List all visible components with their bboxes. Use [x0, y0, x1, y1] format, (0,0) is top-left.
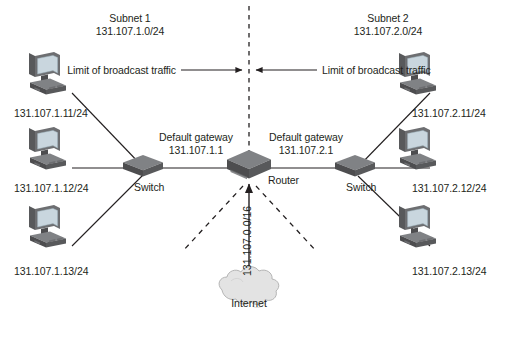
router-label: Router [268, 174, 299, 187]
broadcast-limit-label-left: Limit of broadcast traffic [67, 64, 176, 77]
subnet-1-cidr: 131.107.1.0/24 [96, 25, 165, 38]
link-left-pc1 [72, 93, 143, 167]
computer-icon-left-1 [29, 52, 66, 95]
router-icon [227, 150, 271, 179]
wan-address-label: 131.107.0.0/16 [241, 206, 253, 276]
subnet-1-title: Subnet 1 131.107.1.0/24 [96, 12, 165, 38]
switch-left-label: Switch [134, 181, 164, 194]
diagram-canvas [0, 0, 505, 338]
computer-icon-right-2 [399, 127, 436, 170]
wan-dash-left [182, 186, 243, 252]
default-gateway-right-label: Default gateway [269, 131, 343, 144]
default-gateway-left-label: Default gateway [159, 131, 233, 144]
wan-dash-right [256, 186, 317, 252]
subnet-2-cidr: 131.107.2.0/24 [354, 25, 423, 38]
host-address-left-1: 131.107.1.11/24 [14, 107, 88, 120]
network-diagram: Subnet 1 131.107.1.0/24 Subnet 2 131.107… [0, 0, 505, 338]
host-address-left-3: 131.107.1.13/24 [14, 265, 88, 278]
subnet-1-name: Subnet 1 [96, 12, 165, 25]
default-gateway-left-address: 131.107.1.1 [159, 144, 233, 157]
host-address-right-1: 131.107.2.11/24 [412, 107, 486, 120]
host-address-left-2: 131.107.1.12/24 [14, 182, 88, 195]
switch-right-label: Switch [346, 181, 376, 194]
switch-icon-right [335, 155, 375, 177]
subnet-2-name: Subnet 2 [354, 12, 423, 25]
subnet-2-title: Subnet 2 131.107.2.0/24 [354, 12, 423, 38]
host-address-right-3: 131.107.2.13/24 [412, 265, 486, 278]
default-gateway-left: Default gateway 131.107.1.1 [159, 131, 233, 157]
host-address-right-2: 131.107.2.12/24 [412, 182, 486, 195]
default-gateway-right-address: 131.107.2.1 [269, 144, 343, 157]
computer-icon-left-2 [29, 127, 66, 170]
computer-icon-right-3 [399, 205, 436, 248]
switch-icon-left [123, 155, 163, 177]
internet-label: Internet [231, 297, 267, 309]
broadcast-limit-label-right: Limit of broadcast traffic [322, 64, 431, 77]
default-gateway-right: Default gateway 131.107.2.1 [269, 131, 343, 157]
computer-icon-left-3 [29, 205, 66, 248]
